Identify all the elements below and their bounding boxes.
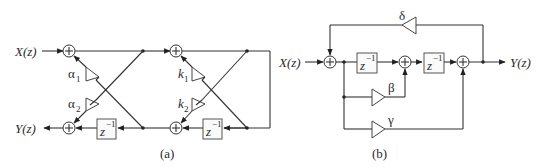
block-diagram-figure: X(z) α 1 α 2 [0,0,545,168]
subscript: 1 [76,74,81,84]
subscript: 1 [184,74,189,84]
delay-text: z [426,58,432,73]
delay-exp: −1 [212,119,222,129]
cross-line-up [96,51,143,100]
adder-a1-upper [63,45,75,57]
panel-a-input-label: X(z) [14,44,37,59]
subscript: 2 [76,104,81,114]
label-alpha1: α [68,66,75,81]
delay-block-a1: z −1 [97,119,116,139]
label-alpha2: α [68,96,75,111]
adder-a1-lower [63,122,75,134]
delay-text: z [359,58,365,73]
cross-line-up [202,51,247,100]
panel-b-filter: X(z) z −1 z −1 [278,8,531,161]
delay-text: z [205,124,211,139]
adder-b2 [399,56,411,68]
junction-dot [245,126,249,130]
delay-exp: −1 [366,53,376,63]
panel-a-output-label: Y(z) [15,121,36,136]
caption-a: (a) [160,146,174,161]
multiplier-beta [372,89,385,106]
panel-a-lattice-filter: X(z) α 1 α 2 [14,44,270,161]
panel-b-output-label: Y(z) [510,55,531,70]
adder-a2-lower [170,122,182,134]
adder-a2-upper [170,45,182,57]
label-gamma: γ [387,112,394,127]
subscript: 2 [184,104,189,114]
delay-text: z [99,124,105,139]
delay-block-b2: z −1 [424,53,444,73]
delay-exp: −1 [433,53,443,63]
delay-exp: −1 [106,119,116,129]
adder-b1 [324,56,336,68]
panel-b-input-label: X(z) [278,55,301,70]
label-delta: δ [399,8,405,23]
label-beta: β [388,80,395,95]
delay-block-a2: z −1 [203,119,222,139]
delay-block-b1: z −1 [357,53,377,73]
adder-b3 [457,56,469,68]
caption-b: (b) [372,146,387,161]
multiplier-gamma [372,121,385,138]
